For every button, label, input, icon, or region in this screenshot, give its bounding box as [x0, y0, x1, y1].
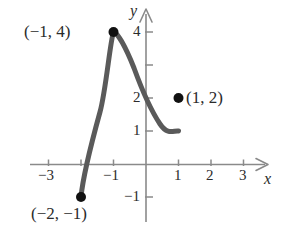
y-tick-label-1: 1 — [133, 122, 141, 139]
y-tick-label-2: 2 — [133, 89, 141, 106]
x-tick-label-1: 1 — [174, 167, 182, 184]
point-label-left-endpoint: (−2, −1) — [31, 204, 87, 224]
function-curve — [81, 32, 179, 197]
point-dot-right-endpoint — [174, 93, 184, 103]
y-tick-label--1: −1 — [124, 188, 140, 205]
x-tick-label--3: −3 — [38, 167, 54, 184]
x-tick-label--1: −1 — [103, 167, 119, 184]
y-tick-label-4: 4 — [133, 23, 141, 40]
point-label-maximum: (−1, 4) — [24, 22, 70, 42]
point-dot-left-endpoint — [76, 192, 86, 202]
y-axis-label: y — [130, 2, 137, 20]
graph-figure: y x −3 −1 1 2 3 4 2 1 −1 (−1, 4) (1, 2) … — [0, 0, 281, 230]
x-tick-label-2: 2 — [206, 167, 214, 184]
point-label-right-endpoint: (1, 2) — [186, 88, 223, 108]
x-axis-label: x — [264, 170, 271, 188]
point-dot-maximum — [109, 27, 119, 37]
x-tick-label-3: 3 — [239, 167, 247, 184]
